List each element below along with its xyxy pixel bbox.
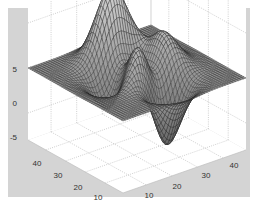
y-tick-label: 40 [33, 159, 42, 168]
x-tick-label: 10 [145, 191, 154, 200]
z-tick-label: 0 [13, 99, 18, 108]
y-tick-label: 20 [74, 183, 83, 192]
x-tick-label: 40 [230, 161, 239, 170]
y-tick-label: 30 [54, 171, 63, 180]
x-tick-label: 20 [173, 182, 182, 191]
y-tick-label: 10 [94, 193, 103, 202]
z-tick-label: 5 [13, 65, 18, 74]
z-tick-label: -5 [10, 133, 18, 142]
surface-plot[interactable]: 5 0 -5 40 30 20 10 10 20 30 40 [0, 0, 264, 209]
figure-window: 5 0 -5 40 30 20 10 10 20 30 40 [0, 0, 264, 209]
x-tick-label: 30 [202, 171, 211, 180]
